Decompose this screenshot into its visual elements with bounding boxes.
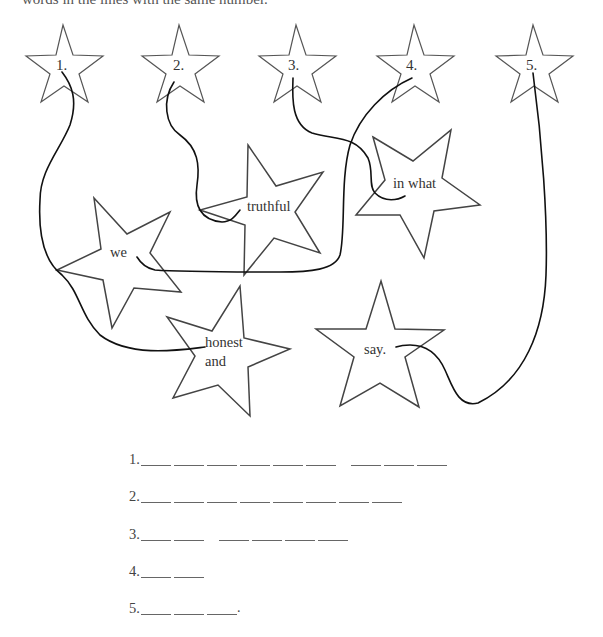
word-we: we xyxy=(110,242,127,262)
row-label: 3. xyxy=(129,527,140,542)
star-number-4: 4. xyxy=(406,58,417,73)
connector-line-3 xyxy=(293,78,405,200)
row-label: 2. xyxy=(129,489,140,504)
answer-blank[interactable] xyxy=(372,488,402,503)
answer-blank[interactable] xyxy=(141,563,171,578)
answer-blank[interactable] xyxy=(252,526,282,541)
answer-blank[interactable] xyxy=(174,600,204,615)
star-number-1: 1. xyxy=(56,58,67,73)
answer-blank[interactable] xyxy=(141,526,171,541)
answer-blank[interactable] xyxy=(417,451,447,466)
answer-blank[interactable] xyxy=(306,488,336,503)
answer-blank[interactable] xyxy=(240,488,270,503)
answer-row-2: 2. xyxy=(129,483,405,503)
star-number-5: 5. xyxy=(526,58,537,73)
word-honest: honest xyxy=(205,332,243,352)
word-star-in-what xyxy=(356,130,480,258)
answer-row-1: 1. xyxy=(129,446,450,466)
answer-blank[interactable] xyxy=(174,526,204,541)
answer-blank[interactable] xyxy=(174,563,204,578)
answer-blank[interactable] xyxy=(141,488,171,503)
answer-blank[interactable] xyxy=(207,451,237,466)
answer-blank[interactable] xyxy=(240,451,270,466)
answer-blank[interactable] xyxy=(219,526,249,541)
answer-blank[interactable] xyxy=(273,451,303,466)
answer-blank[interactable] xyxy=(273,488,303,503)
answer-blank[interactable] xyxy=(306,451,336,466)
row-label: 4. xyxy=(129,564,140,579)
answer-blank[interactable] xyxy=(174,488,204,503)
word-and: and xyxy=(205,351,226,371)
answer-row-5: 5. . xyxy=(129,595,240,615)
answer-blank[interactable] xyxy=(351,451,381,466)
star-number-2: 2. xyxy=(173,58,184,73)
answer-blank[interactable] xyxy=(207,488,237,503)
answer-blank[interactable] xyxy=(141,600,171,615)
answer-row-4: 4. xyxy=(129,558,207,578)
connector-line-5 xyxy=(396,73,546,404)
word-star-we xyxy=(57,198,181,328)
answer-blank[interactable] xyxy=(141,451,171,466)
star-puzzle-canvas xyxy=(0,0,603,637)
answer-blank[interactable] xyxy=(384,451,414,466)
answer-blank[interactable] xyxy=(285,526,315,541)
connector-line-2 xyxy=(167,82,240,222)
answer-blank[interactable] xyxy=(339,488,369,503)
row-label: 5. xyxy=(129,601,140,616)
word-say: say. xyxy=(364,339,386,359)
word-truthful: truthful xyxy=(247,196,291,216)
answer-blank[interactable] xyxy=(174,451,204,466)
answer-row-3: 3. xyxy=(129,521,351,541)
answer-blank[interactable] xyxy=(207,600,237,615)
star-number-3: 3. xyxy=(288,58,299,73)
row-end-punctuation: . xyxy=(237,601,241,615)
word-in-what: in what xyxy=(393,173,436,193)
row-label: 1. xyxy=(129,452,140,467)
answer-blank[interactable] xyxy=(318,526,348,541)
